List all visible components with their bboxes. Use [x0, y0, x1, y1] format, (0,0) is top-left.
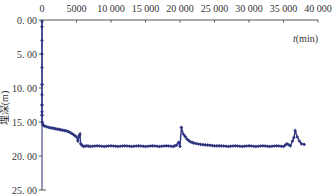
x-tick-label: 40 000	[304, 3, 332, 14]
y-axis: 0. 005. 0010. 0015. 0020. 0025. 00	[12, 15, 46, 195]
data-series	[40, 20, 306, 149]
data-point	[76, 139, 80, 143]
data-point	[40, 39, 44, 43]
x-tick-label: 25 000	[201, 3, 229, 14]
x-tick-label: 35 000	[270, 3, 298, 14]
data-point	[302, 143, 306, 147]
y-tick-label: 25. 00	[12, 185, 37, 195]
data-point	[40, 110, 44, 114]
data-point	[40, 52, 44, 56]
data-point	[180, 126, 184, 130]
data-point	[178, 145, 182, 149]
data-point	[40, 103, 44, 107]
data-point	[40, 83, 44, 87]
y-axis-label: 埋深(m)	[0, 91, 11, 125]
y-tick-label: 5. 00	[17, 49, 37, 60]
data-point	[40, 113, 44, 117]
x-tick-label: 20 000	[166, 3, 194, 14]
chart: 埋深(m) 0500010 00015 00020 00025 00030 00…	[0, 0, 336, 194]
data-point	[40, 93, 44, 97]
data-point	[40, 66, 44, 70]
series-line	[42, 21, 304, 146]
data-point	[293, 129, 297, 133]
x-tick-label: 30 000	[235, 3, 263, 14]
y-axis-title: 埋深(m)	[0, 91, 11, 125]
data-point	[40, 25, 44, 29]
x-tick-label: 0	[40, 3, 45, 14]
y-tick-label: 20. 00	[12, 151, 37, 162]
x-axis-label: t(min)	[293, 33, 318, 45]
x-axis-label-unit: (min)	[296, 33, 318, 45]
y-tick-label: 10. 00	[12, 83, 37, 94]
data-point	[292, 136, 296, 140]
x-axis: 0500010 00015 00020 00025 00030 00035 00…	[40, 3, 332, 23]
x-tick-label: 15 000	[132, 3, 160, 14]
y-tick-label: 15. 00	[12, 117, 37, 128]
x-tick-label: 10 000	[97, 3, 125, 14]
x-tick-label: 5000	[67, 3, 87, 14]
x-axis-title: t(min)	[293, 33, 318, 45]
y-tick-label: 0. 00	[17, 15, 37, 26]
